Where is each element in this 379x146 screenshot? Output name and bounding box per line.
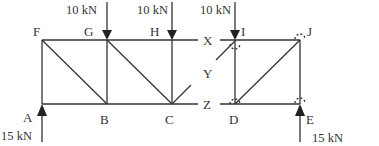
load-label-I: 10 kN bbox=[200, 3, 231, 17]
section-label-Y: Y bbox=[203, 66, 213, 81]
node-label-C: C bbox=[165, 112, 174, 127]
load-label-H: 10 kN bbox=[137, 3, 168, 17]
node-label-D: D bbox=[229, 112, 238, 127]
reaction-label-E: 15 kN bbox=[312, 131, 343, 145]
node-label-J: J bbox=[307, 24, 312, 39]
load-label-G: 10 kN bbox=[66, 3, 97, 17]
section-label-X: X bbox=[203, 33, 213, 48]
section-label-Z: Z bbox=[203, 97, 211, 112]
member-DJ bbox=[235, 40, 300, 104]
node-label-E: E bbox=[306, 112, 314, 127]
truss-figure: F G H A B C X Y Z I J D E 10 kN 10 kN 10… bbox=[0, 0, 379, 146]
load-arrowhead-H bbox=[167, 30, 177, 40]
node-label-A: A bbox=[23, 110, 33, 125]
joint-arc-J bbox=[295, 34, 305, 39]
load-arrowhead-G bbox=[102, 30, 112, 40]
node-label-F: F bbox=[33, 24, 40, 39]
node-label-I: I bbox=[241, 24, 245, 39]
node-label-B: B bbox=[100, 112, 109, 127]
reaction-arrowhead-A bbox=[37, 104, 47, 116]
truss-diagram: F G H A B C X Y Z I J D E 10 kN 10 kN 10… bbox=[0, 0, 379, 146]
member-FB bbox=[42, 40, 107, 104]
member-GC bbox=[107, 40, 172, 104]
load-arrowhead-I bbox=[230, 30, 240, 40]
reaction-arrowhead-E bbox=[295, 104, 305, 116]
member-Y-diagonal bbox=[216, 41, 235, 60]
member-C-diagonal bbox=[172, 85, 191, 104]
reaction-label-A: 15 kN bbox=[1, 129, 32, 143]
node-label-G: G bbox=[84, 24, 93, 39]
node-label-H: H bbox=[150, 24, 159, 39]
